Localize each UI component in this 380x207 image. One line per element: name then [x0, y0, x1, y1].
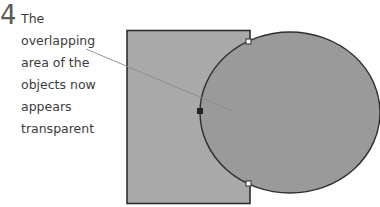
intersection-handle-top[interactable]	[246, 39, 251, 44]
intersection-handle-bottom[interactable]	[246, 181, 251, 186]
drawing-canvas	[0, 0, 380, 207]
ellipse-shape[interactable]	[200, 32, 380, 193]
center-handle[interactable]	[197, 108, 203, 114]
